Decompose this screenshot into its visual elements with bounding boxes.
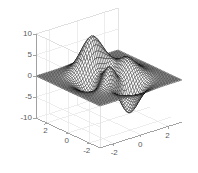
z-tick-label-0: 0 (28, 72, 32, 80)
x-tick-label-0: 0 (138, 141, 142, 149)
x-tick-label-neg2: -2 (111, 149, 118, 157)
peaks-mesh-layer (36, 36, 182, 113)
z-tick-label-neg10: -10 (20, 114, 32, 122)
z-tick-label-5: 5 (28, 51, 32, 59)
figure-panel: 1050-5-1020-2-202 (0, 0, 198, 173)
z-tick-label-neg5: -5 (25, 93, 32, 101)
y-tick-label-neg2: -2 (80, 147, 90, 155)
y-tick-label-0: 0 (59, 137, 69, 145)
z-tick-label-10: 10 (23, 30, 32, 38)
y-tick-label-2: 2 (38, 127, 48, 135)
surface-plot-canvas (0, 0, 198, 173)
x-tick-label-2: 2 (165, 132, 169, 140)
